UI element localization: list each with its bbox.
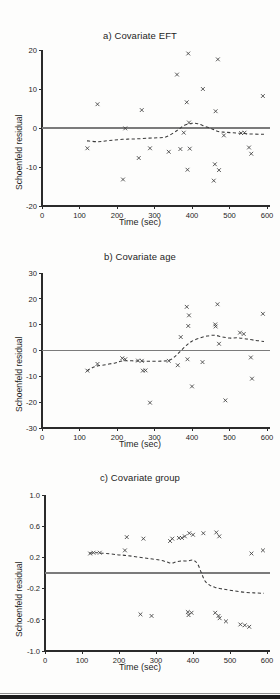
y-tick-label: -20 bbox=[26, 202, 37, 211]
data-point bbox=[213, 162, 217, 166]
data-point bbox=[170, 537, 174, 541]
data-point bbox=[212, 179, 216, 183]
panel-a-x-axis-title: Time (sec) bbox=[0, 217, 280, 227]
data-point bbox=[186, 610, 190, 614]
y-tick-label: -0.6 bbox=[27, 616, 40, 625]
y-tick-label: 0.6 bbox=[29, 522, 40, 531]
data-point bbox=[88, 552, 92, 556]
panel-c-y-axis-title: Schoenfeld residual bbox=[14, 562, 24, 638]
data-point bbox=[178, 147, 182, 151]
data-point bbox=[190, 385, 194, 389]
y-tick-label: 0 bbox=[33, 346, 37, 355]
data-point bbox=[121, 178, 125, 182]
y-tick-label: -10 bbox=[26, 372, 37, 381]
data-point bbox=[85, 369, 89, 373]
panel-b-plot: -30-20-1001020300100200300400500600 bbox=[0, 240, 280, 462]
data-point bbox=[120, 356, 124, 360]
data-point bbox=[186, 324, 190, 328]
y-tick-label: 20 bbox=[29, 295, 37, 304]
data-point bbox=[140, 108, 144, 112]
data-point bbox=[186, 168, 190, 172]
smooth-curve bbox=[87, 335, 264, 371]
data-point bbox=[150, 614, 154, 618]
panel-b-x-axis-title: Time (sec) bbox=[0, 439, 280, 449]
bottom-divider bbox=[0, 695, 280, 699]
panel-c-plot: -1.0-0.6-0.20.20.61.00100200300400500600 bbox=[0, 462, 280, 687]
data-point bbox=[216, 57, 220, 61]
data-point bbox=[125, 535, 129, 539]
y-tick-label: 30 bbox=[29, 269, 37, 278]
y-tick-label: -10 bbox=[26, 163, 37, 172]
data-point bbox=[261, 312, 265, 316]
data-point bbox=[191, 533, 195, 537]
panel-a-plot: -20-10010200100200300400500600 bbox=[0, 0, 280, 240]
data-point bbox=[187, 313, 191, 317]
data-point bbox=[176, 363, 180, 367]
y-tick-label: 10 bbox=[29, 85, 37, 94]
data-point bbox=[214, 531, 218, 535]
y-tick-label: 1.0 bbox=[29, 491, 40, 500]
data-point bbox=[249, 356, 253, 360]
y-tick-label: 20 bbox=[29, 46, 37, 55]
y-tick-label: 0 bbox=[33, 124, 37, 133]
y-tick-label: -0.2 bbox=[27, 584, 40, 593]
data-point bbox=[182, 131, 186, 135]
data-point bbox=[144, 368, 148, 372]
data-point bbox=[148, 401, 152, 405]
data-point bbox=[148, 146, 152, 150]
data-point bbox=[214, 109, 218, 113]
data-point bbox=[249, 152, 253, 156]
figure-root: a) Covariate EFT -20-1001020010020030040… bbox=[0, 0, 280, 699]
chart-panel-a: a) Covariate EFT -20-1001020010020030040… bbox=[0, 0, 280, 240]
data-point bbox=[261, 548, 265, 552]
data-point bbox=[217, 534, 221, 538]
data-point bbox=[217, 168, 221, 172]
data-point bbox=[250, 552, 254, 556]
data-point bbox=[201, 531, 205, 535]
data-point bbox=[139, 612, 143, 616]
data-point bbox=[167, 150, 171, 154]
data-point bbox=[137, 156, 141, 160]
data-point bbox=[175, 73, 179, 77]
panel-a-y-axis-title: Schoenfeld residual bbox=[14, 115, 24, 191]
y-tick-label: -20 bbox=[26, 398, 37, 407]
data-point bbox=[201, 87, 205, 91]
data-point bbox=[223, 398, 227, 402]
y-tick-label: 10 bbox=[29, 320, 37, 329]
data-point bbox=[250, 377, 254, 381]
data-point bbox=[96, 102, 100, 106]
panel-b-y-axis-title: Schoenfeld residual bbox=[14, 337, 24, 413]
data-point bbox=[261, 94, 265, 98]
bottom-divider-thin bbox=[0, 693, 280, 694]
panel-c-x-axis-title: Time (sec) bbox=[0, 662, 280, 672]
data-point bbox=[187, 531, 191, 535]
data-point bbox=[222, 134, 226, 138]
data-point bbox=[238, 331, 242, 335]
y-tick-label: -30 bbox=[26, 424, 37, 433]
data-point bbox=[187, 613, 191, 617]
data-point bbox=[186, 52, 190, 56]
chart-panel-b: b) Covariate age -30-20-1001020300100200… bbox=[0, 240, 280, 462]
y-tick-label: 0.2 bbox=[29, 553, 40, 562]
data-point bbox=[243, 623, 247, 627]
data-point bbox=[247, 625, 251, 629]
data-point bbox=[123, 548, 127, 552]
data-point bbox=[185, 100, 189, 104]
data-point bbox=[224, 619, 228, 623]
data-point bbox=[167, 359, 171, 363]
data-point bbox=[201, 360, 205, 364]
chart-panel-c: c) Covariate group -1.0-0.6-0.20.20.61.0… bbox=[0, 462, 280, 687]
data-point bbox=[190, 611, 194, 615]
data-point bbox=[216, 302, 220, 306]
data-point bbox=[188, 147, 192, 151]
data-point bbox=[85, 146, 89, 150]
smooth-curve bbox=[87, 123, 264, 141]
data-point bbox=[185, 305, 189, 309]
data-point bbox=[186, 357, 190, 361]
data-point bbox=[247, 146, 251, 150]
data-point bbox=[179, 335, 183, 339]
data-point bbox=[242, 332, 246, 336]
y-tick-label: -1.0 bbox=[27, 647, 40, 656]
data-point bbox=[142, 537, 146, 541]
data-point bbox=[238, 623, 242, 627]
